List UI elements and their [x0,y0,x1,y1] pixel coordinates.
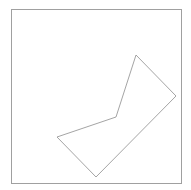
concave-pentagon [57,55,176,177]
bounding-frame [12,10,182,184]
diagram-svg [0,0,191,190]
diagram-canvas [0,0,191,190]
